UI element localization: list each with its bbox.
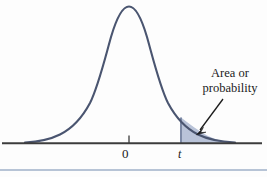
area-probability-annotation: Area or probability bbox=[196, 66, 264, 97]
annotation-line-1: Area or bbox=[196, 66, 264, 81]
axis-label-t: t bbox=[178, 148, 181, 161]
t-distribution-figure: 0 t Area or probability bbox=[0, 0, 267, 177]
annotation-line-2: probability bbox=[196, 81, 264, 96]
annotation-arrow-line bbox=[200, 99, 223, 130]
axis-label-zero: 0 bbox=[122, 147, 129, 161]
